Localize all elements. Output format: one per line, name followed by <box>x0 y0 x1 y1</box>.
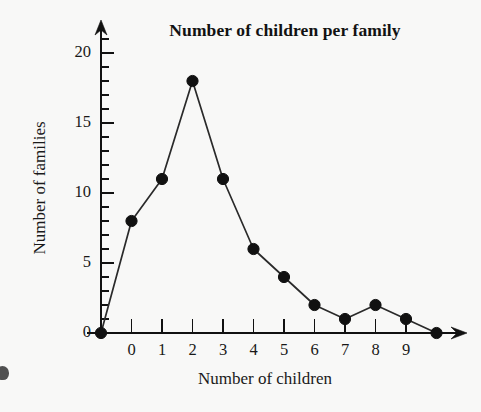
data-point-marker <box>370 299 381 310</box>
data-point-marker <box>431 327 442 338</box>
x-axis-tick-label: 6 <box>304 340 326 360</box>
chart-title: Number of children per family <box>125 20 445 41</box>
data-markers-group <box>95 75 442 338</box>
y-axis-tick-label: 10 <box>57 182 91 202</box>
axis-ticks-group <box>101 39 406 333</box>
y-axis-tick-label: 5 <box>57 252 91 272</box>
data-point-marker <box>309 299 320 310</box>
data-point-marker <box>217 173 228 184</box>
data-point-marker <box>278 271 289 282</box>
x-axis-tick-label: 2 <box>182 340 204 360</box>
x-axis-tick-label: 7 <box>334 340 356 360</box>
data-point-marker <box>187 75 198 86</box>
x-axis-tick-label: 5 <box>273 340 295 360</box>
y-axis-tick-label: 15 <box>57 112 91 132</box>
data-point-marker <box>248 243 259 254</box>
chart-figure: Number of children per family Number of … <box>0 0 481 412</box>
x-axis-title: Number of children <box>150 369 380 389</box>
data-series-group <box>101 81 437 333</box>
x-axis-tick-label: 0 <box>121 340 143 360</box>
x-axis-tick-label: 9 <box>395 340 417 360</box>
x-axis-tick-label: 8 <box>365 340 387 360</box>
data-point-marker <box>156 173 167 184</box>
data-point-marker <box>400 313 411 324</box>
data-point-marker <box>95 327 106 338</box>
x-axis-tick-label: 3 <box>212 340 234 360</box>
frequency-polygon-line <box>101 81 437 333</box>
y-axis-title: Number of families <box>30 88 50 288</box>
x-axis-tick-label: 4 <box>243 340 265 360</box>
data-point-marker <box>126 215 137 226</box>
x-axis-tick-label: 1 <box>151 340 173 360</box>
axes-group <box>87 20 467 339</box>
y-axis-tick-label: 0 <box>57 322 91 342</box>
data-point-marker <box>339 313 350 324</box>
y-axis-tick-label: 20 <box>57 42 91 62</box>
